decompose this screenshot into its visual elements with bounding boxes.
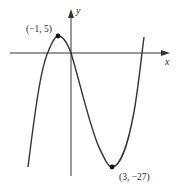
cubic-graph: (−1, 5) (3, −27) x y [0,0,180,186]
local-min-label: (3, −27) [119,172,150,183]
local-max-label: (−1, 5) [26,24,52,35]
y-axis-arrow-icon [68,9,74,18]
local-max-point [56,34,61,39]
local-min-point [110,165,115,170]
x-axis-label: x [164,56,170,67]
y-axis-label: y [75,5,81,16]
cubic-curve [28,36,144,167]
